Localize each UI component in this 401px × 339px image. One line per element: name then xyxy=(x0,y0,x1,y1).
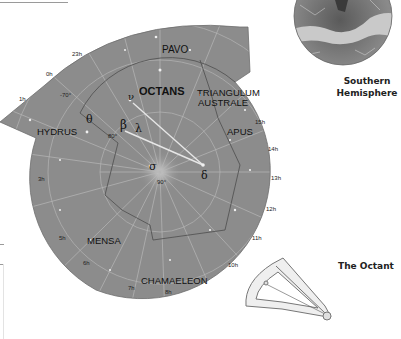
label-australe: AUSTRALE xyxy=(198,97,248,108)
hour-label: 15h xyxy=(255,119,265,125)
hour-label: 1h xyxy=(19,96,26,102)
hour-label: 8h xyxy=(165,289,172,295)
label-chamaeleon: CHAMAELEON xyxy=(141,275,208,286)
label-hydrus: HYDRUS xyxy=(37,126,77,137)
star-label-lambda: λ xyxy=(135,122,142,135)
star-label-theta: θ xyxy=(86,113,93,126)
caption-line: Southern xyxy=(327,75,401,87)
label-apus: APUS xyxy=(227,126,253,137)
hour-label: 3h xyxy=(38,176,45,182)
hour-label: 23h xyxy=(72,51,82,57)
star-label-beta: β xyxy=(120,118,127,132)
hour-label: 5h xyxy=(59,235,66,241)
hour-label: 11h xyxy=(252,235,262,241)
label-mensa: MENSA xyxy=(87,235,121,246)
hour-label: 14h xyxy=(268,146,278,152)
caption-line: Hemisphere xyxy=(327,87,401,99)
declination-label: -70° xyxy=(60,92,72,98)
hour-label: 7h xyxy=(128,285,135,291)
star-label-sigma: σ xyxy=(149,160,157,173)
hour-label: 12h xyxy=(266,206,276,212)
octant-caption: The Octant xyxy=(338,261,394,271)
label-pavo: PAVO xyxy=(162,44,189,55)
hour-label: 0h xyxy=(46,71,53,77)
octant-illustration xyxy=(246,258,331,320)
declination-label: 80° xyxy=(108,133,118,139)
label-octans: OCTANS xyxy=(139,85,185,97)
hemisphere-caption: Southern Hemisphere xyxy=(327,75,401,99)
declination-label: 90° xyxy=(157,179,167,185)
hour-label: 6h xyxy=(83,260,90,266)
star-label-nu: ν xyxy=(128,91,134,102)
star-label-delta: δ xyxy=(201,169,208,182)
hour-label: 13h xyxy=(271,175,281,181)
hour-label: 10h xyxy=(228,262,238,268)
star-map: PAVO OCTANS TRIANGULUM AUSTRALE HYDRUS A… xyxy=(0,0,401,339)
hemisphere-globe xyxy=(290,0,400,70)
